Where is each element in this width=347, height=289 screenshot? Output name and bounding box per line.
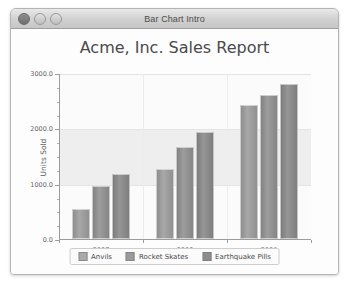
y-axis-title-label: Units Sold — [39, 138, 48, 176]
x-tick — [143, 240, 144, 243]
y-tick — [55, 74, 59, 75]
chart-legend: AnvilsRocket SkatesEarthquake Pills — [69, 248, 280, 265]
y-tick — [55, 129, 59, 130]
x-axis-line — [59, 239, 311, 240]
y-tick — [55, 185, 59, 186]
y-tick-label: 1000.0 — [30, 181, 53, 189]
legend-label: Rocket Skates — [139, 253, 188, 261]
y-tick-minor — [57, 143, 59, 144]
y-tick-label: 3000.0 — [30, 70, 53, 78]
bar-2007-rocket-skates — [92, 186, 110, 239]
legend-label: Earthquake Pills — [215, 253, 271, 261]
legend-item-rocket-skates[interactable]: Rocket Skates — [126, 252, 188, 261]
y-tick-label: 0.0 — [43, 236, 53, 244]
grid-line-horizontal — [59, 74, 311, 75]
legend-swatch-icon — [202, 252, 211, 261]
grid-line-vertical — [143, 74, 144, 240]
bar-2009-anvils — [240, 105, 258, 239]
bar-2008-anvils — [156, 169, 174, 239]
legend-swatch-icon — [126, 252, 135, 261]
close-button[interactable] — [18, 13, 30, 25]
bar-2007-earthquake-pills — [112, 174, 130, 239]
y-axis-line — [59, 74, 60, 240]
chart-title: Acme, Inc. Sales Report — [11, 38, 338, 57]
window-controls — [18, 13, 62, 25]
minimize-button[interactable] — [34, 13, 46, 25]
plot-area: 0.01000.02000.03000.0 200720082009 — [59, 74, 311, 240]
window-titlebar[interactable]: Bar Chart Intro — [11, 9, 338, 29]
zoom-button[interactable] — [50, 13, 62, 25]
legend-swatch-icon — [78, 252, 87, 261]
bar-2008-rocket-skates — [176, 147, 194, 239]
y-tick-minor — [57, 116, 59, 117]
y-tick-minor — [57, 199, 59, 200]
bar-2008-earthquake-pills — [196, 132, 214, 239]
y-tick-minor — [57, 102, 59, 103]
app-window: Bar Chart Intro Acme, Inc. Sales Report … — [10, 8, 339, 275]
legend-item-earthquake-pills[interactable]: Earthquake Pills — [202, 252, 271, 261]
x-tick — [59, 240, 60, 243]
y-tick-minor — [57, 88, 59, 89]
y-tick-minor — [57, 157, 59, 158]
bar-2007-anvils — [72, 209, 90, 239]
y-tick-label: 2000.0 — [30, 125, 53, 133]
grid-line-vertical — [227, 74, 228, 240]
legend-item-anvils[interactable]: Anvils — [78, 252, 112, 261]
x-tick — [227, 240, 228, 243]
legend-label: Anvils — [91, 253, 112, 261]
bar-2009-earthquake-pills — [280, 84, 298, 239]
y-tick-minor — [57, 171, 59, 172]
chart-canvas: Acme, Inc. Sales Report Units Sold 0.010… — [11, 29, 338, 274]
y-tick-minor — [57, 226, 59, 227]
y-tick-minor — [57, 212, 59, 213]
bar-2009-rocket-skates — [260, 95, 278, 239]
x-tick — [311, 240, 312, 243]
